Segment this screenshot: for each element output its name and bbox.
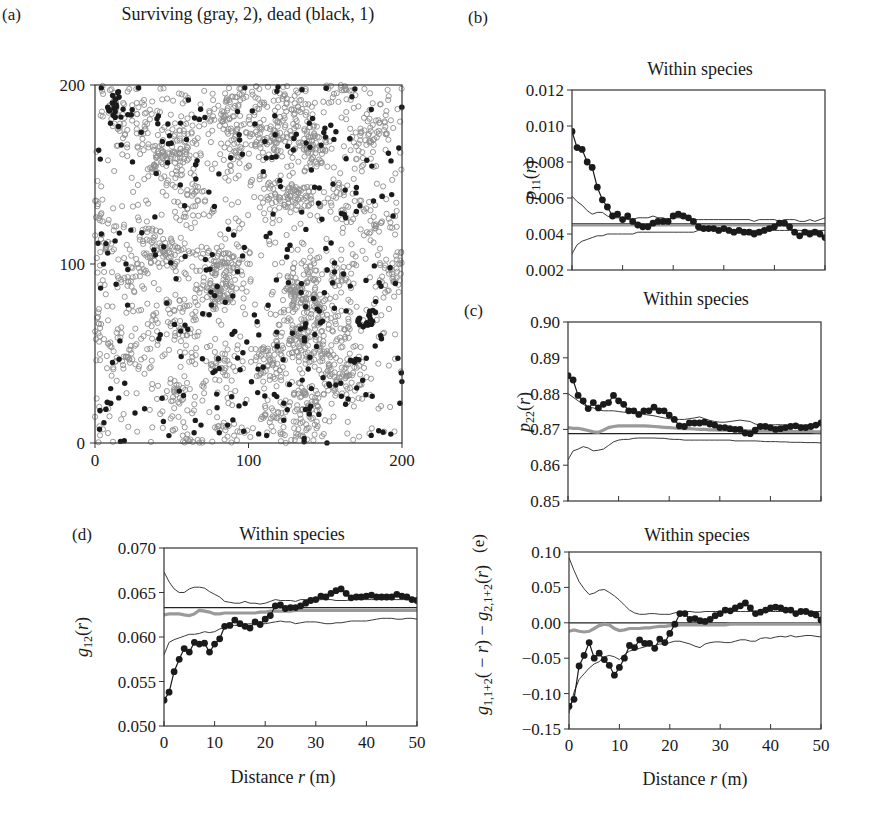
dead-tree-point [369,107,374,112]
surviving-tree-point [331,177,336,182]
dead-tree-point [294,132,299,137]
surviving-tree-point [376,128,381,133]
observed-point [176,656,183,663]
surviving-tree-point [176,414,181,419]
dead-tree-point [323,134,328,139]
surviving-tree-point [308,213,313,218]
surviving-tree-point [349,380,354,385]
surviving-tree-point [135,202,140,207]
dead-tree-point [103,406,109,412]
surviving-tree-point [351,437,356,442]
dead-tree-point [166,433,171,438]
surviving-tree-point [370,149,375,154]
surviving-tree-point [205,161,210,166]
observed-point [666,630,673,637]
dead-tree-point [116,124,121,129]
surviving-tree-point [155,132,160,137]
dead-tree-point [264,155,269,160]
dead-tree-point [164,300,169,305]
panel-c-title: Within species [643,289,749,309]
surviving-tree-point [361,162,366,167]
dead-tree-point [353,356,359,362]
surviving-tree-point [353,130,358,135]
dead-tree-point [178,120,183,125]
dead-tree-point [277,178,282,183]
surviving-tree-point [121,366,126,371]
dead-tree-point [366,313,372,319]
dead-tree-point [254,319,259,324]
dead-tree-point [186,97,191,102]
panel-e: (e) Within species 01020304050−0.15−0.10… [469,525,830,790]
dead-tree-point [325,267,330,272]
surviving-tree-point [201,384,206,389]
surviving-tree-point [225,347,230,352]
figure: (a) Surviving (gray, 2), dead (black, 1)… [0,0,870,829]
dead-tree-point [118,114,123,119]
surviving-tree-point [309,394,314,399]
dead-tree-point [101,420,106,425]
surviving-tree-point [363,256,368,261]
dead-tree-point [101,261,106,266]
surviving-tree-point [209,166,214,171]
ylabel-subscript: 1,1+2 [481,678,495,706]
surviving-tree-point [331,414,336,419]
dead-tree-point [373,343,378,348]
surviving-tree-point [197,124,202,129]
surviving-tree-point [178,318,183,323]
dead-tree-point [95,241,100,246]
dead-tree-point [106,107,112,113]
dead-tree-point [322,290,327,295]
surviving-tree-point [280,298,285,303]
surviving-tree-point [274,384,279,389]
surviving-tree-point [313,388,318,393]
surviving-tree-point [308,248,313,253]
dead-tree-point [255,390,260,395]
dead-tree-point [216,356,221,361]
dead-tree-point [371,198,376,203]
surviving-tree-point [201,212,206,217]
dead-tree-point [343,187,348,192]
surviving-tree-point [381,295,386,300]
dead-tree-point [264,433,269,438]
surviving-tree-point [190,123,195,128]
observed-point [614,211,621,218]
surviving-tree-point [393,332,398,337]
dead-tree-point [240,350,245,355]
surviving-tree-point [160,97,165,102]
surviving-tree-point [262,186,267,191]
dead-tree-point [302,436,307,441]
dead-tree-point [240,152,245,157]
surviving-tree-point [135,429,140,434]
surviving-tree-point [190,264,195,269]
surviving-tree-point [196,213,201,218]
surviving-tree-point [192,394,197,399]
dead-tree-point [364,158,369,163]
dead-tree-point [363,392,368,397]
surviving-tree-point [114,330,119,335]
surviving-tree-point [192,402,197,407]
surviving-tree-point [156,287,161,292]
surviving-tree-point [107,414,112,419]
surviving-tree-point [140,142,145,147]
dead-tree-point [275,344,280,349]
surviving-tree-point [359,169,364,174]
surviving-tree-point [190,213,195,218]
observed-point [226,622,233,629]
dead-tree-point [99,231,104,236]
dead-tree-point [388,158,393,163]
surviving-tree-point [243,142,248,147]
surviving-tree-point [106,217,111,222]
dead-tree-point [303,304,308,309]
dead-tree-point [320,319,325,324]
dead-tree-point [223,300,228,305]
surviving-tree-point [360,248,365,253]
surviving-tree-point [151,280,156,285]
surviving-tree-point [166,347,171,352]
surviving-tree-point [149,358,154,363]
surviving-tree-point [240,305,245,310]
dead-tree-point [244,339,249,344]
surviving-tree-point [312,432,317,437]
surviving-tree-point [180,309,185,314]
y-tick-label: 0.10 [531,543,561,562]
surviving-tree-point [328,209,333,214]
